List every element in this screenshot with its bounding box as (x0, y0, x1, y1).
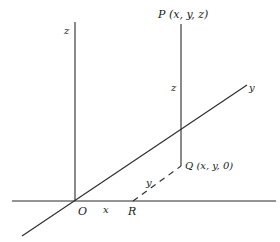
y-segment-label: y (145, 177, 152, 188)
z-axis-label: z (63, 25, 70, 36)
origin-label: O (78, 205, 87, 218)
z-segment-label: z (170, 82, 177, 93)
point-r-label: R (127, 205, 136, 218)
diagram-canvas: z y P (x, y, z) z Q (x, y, 0) y O x R (0, 0, 280, 242)
point-p-label: P (x, y, z) (157, 8, 208, 21)
x-segment-label: x (103, 204, 109, 215)
segment-rq-dashed (133, 166, 181, 201)
y-axis-label: y (248, 82, 255, 93)
point-q-label: Q (x, y, 0) (185, 160, 233, 171)
